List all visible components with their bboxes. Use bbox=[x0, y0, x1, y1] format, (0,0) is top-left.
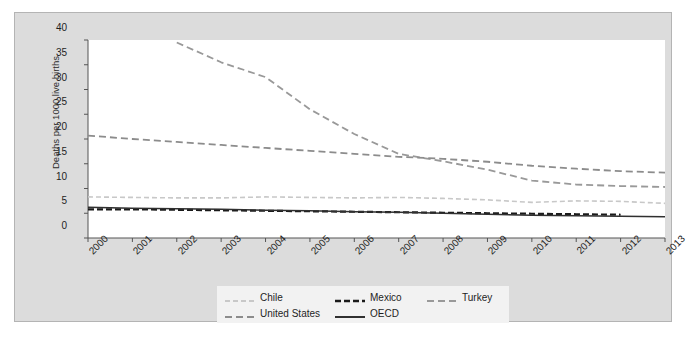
y-tick-label: 40 bbox=[45, 23, 67, 33]
y-tick-label: 0 bbox=[45, 221, 67, 231]
legend-label: Chile bbox=[260, 292, 283, 303]
legend-entry-oecd[interactable]: OECD bbox=[335, 306, 399, 320]
legend-label: United States bbox=[260, 308, 320, 319]
legend-swatch-icon bbox=[335, 308, 365, 318]
legend-label: OECD bbox=[370, 308, 399, 319]
y-tick-label: 35 bbox=[45, 48, 67, 58]
legend-swatch-icon bbox=[225, 292, 255, 302]
figure-root: Deaths per 1000 live births 051015202530… bbox=[0, 0, 686, 338]
chart-legend: ChileMexicoTurkeyUnited StatesOECD bbox=[217, 286, 509, 323]
legend-swatch-icon bbox=[427, 292, 457, 302]
legend-entry-mexico[interactable]: Mexico bbox=[335, 290, 402, 304]
legend-label: Mexico bbox=[370, 292, 402, 303]
y-tick-label: 10 bbox=[45, 172, 67, 182]
y-tick-label: 20 bbox=[45, 122, 67, 132]
y-axis-title: Deaths per 1000 live births bbox=[50, 13, 61, 213]
legend-entry-chile[interactable]: Chile bbox=[225, 290, 283, 304]
legend-swatch-icon bbox=[225, 308, 255, 318]
y-tick-label: 25 bbox=[45, 97, 67, 107]
legend-swatch-icon bbox=[335, 292, 365, 302]
y-tick-label: 5 bbox=[45, 196, 67, 206]
y-tick-label: 30 bbox=[45, 73, 67, 83]
series-line-united-states bbox=[88, 136, 665, 173]
legend-label: Turkey bbox=[462, 292, 492, 303]
series-line-oecd bbox=[88, 207, 665, 216]
chart-panel: Deaths per 1000 live births 051015202530… bbox=[14, 12, 672, 322]
y-tick-label: 15 bbox=[45, 147, 67, 157]
legend-entry-united-states[interactable]: United States bbox=[225, 306, 320, 320]
series-line-chile bbox=[88, 197, 665, 203]
legend-entry-turkey[interactable]: Turkey bbox=[427, 290, 492, 304]
series-layer bbox=[88, 42, 665, 216]
series-line-turkey bbox=[177, 42, 665, 187]
